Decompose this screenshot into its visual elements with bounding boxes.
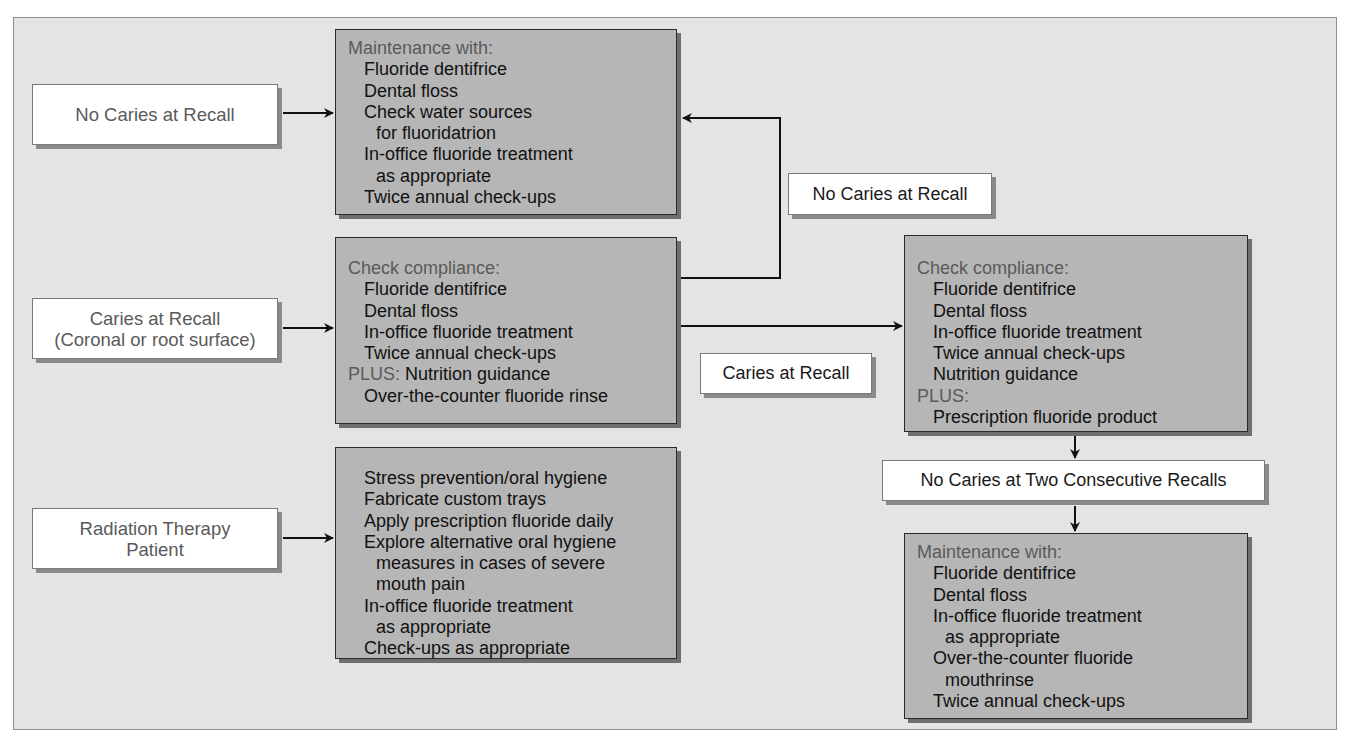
maintenance-item: for fluoridatrion: [348, 123, 666, 144]
radiation-item: as appropriate: [364, 617, 666, 638]
transition-two-consecutive: No Caries at Two Consecutive Recalls: [882, 460, 1265, 501]
compliance-plus-item: Over-the-counter fluoride rinse: [348, 386, 666, 407]
maintenance-item: Twice annual check-ups: [348, 187, 666, 208]
radiation-item: Apply prescription fluoride daily: [364, 511, 666, 532]
maintenance-item: Fluoride dentifrice: [348, 59, 666, 80]
compliance-plus-row: PLUS: Nutrition guidance: [348, 364, 666, 385]
compliance-item: In-office fluoride treatment: [348, 322, 666, 343]
radiation-item: measures in cases of severe: [364, 553, 666, 574]
final-maintenance-item: Over-the-counter fluoride: [917, 648, 1237, 669]
radiation-item: Check-ups as appropriate: [364, 638, 666, 659]
condition-no-caries-label: No Caries at Recall: [75, 104, 234, 125]
escalated-item: Fluoride dentifrice: [917, 279, 1237, 300]
maintenance-item: Dental floss: [348, 81, 666, 102]
maintenance-header: Maintenance with:: [348, 38, 666, 59]
transition-caries: Caries at Recall: [700, 353, 872, 394]
condition-radiation: Radiation Therapy Patient: [32, 508, 278, 569]
final-maintenance-item: Dental floss: [917, 585, 1237, 606]
escalated-item: Twice annual check-ups: [917, 343, 1237, 364]
maintenance-box: Maintenance with: Fluoride dentifrice De…: [335, 29, 677, 215]
compliance-plus-item: Nutrition guidance: [405, 364, 550, 384]
transition-no-caries: No Caries at Recall: [788, 173, 992, 215]
compliance-plus-label: PLUS:: [348, 364, 400, 384]
escalated-plus-label: PLUS:: [917, 386, 1237, 407]
escalated-item: Nutrition guidance: [917, 364, 1237, 385]
transition-two-consecutive-label: No Caries at Two Consecutive Recalls: [921, 470, 1227, 491]
final-maintenance-box: Maintenance with: Fluoride dentifrice De…: [904, 533, 1248, 719]
radiation-box: Stress prevention/oral hygiene Fabricate…: [335, 447, 677, 659]
condition-caries-line2: (Coronal or root surface): [54, 329, 256, 350]
maintenance-item: Check water sources: [348, 102, 666, 123]
escalated-plus-item: Prescription fluoride product: [917, 407, 1237, 428]
final-maintenance-item: as appropriate: [917, 627, 1237, 648]
compliance-box: Check compliance: Fluoride dentifrice De…: [335, 237, 677, 424]
final-maintenance-item: mouthrinse: [917, 670, 1237, 691]
condition-no-caries: No Caries at Recall: [32, 84, 278, 145]
condition-radiation-line2: Patient: [126, 539, 184, 560]
radiation-item: Fabricate custom trays: [364, 489, 666, 510]
compliance-item: Twice annual check-ups: [348, 343, 666, 364]
condition-caries-line1: Caries at Recall: [90, 308, 221, 329]
transition-caries-label: Caries at Recall: [722, 363, 849, 384]
final-maintenance-item: In-office fluoride treatment: [917, 606, 1237, 627]
escalated-item: Dental floss: [917, 301, 1237, 322]
escalated-item: In-office fluoride treatment: [917, 322, 1237, 343]
final-maintenance-header: Maintenance with:: [917, 542, 1237, 563]
compliance-header: Check compliance:: [348, 258, 666, 279]
maintenance-item: In-office fluoride treatment: [348, 144, 666, 165]
maintenance-item: as appropriate: [348, 166, 666, 187]
compliance-item: Fluoride dentifrice: [348, 279, 666, 300]
escalated-box: Check compliance: Fluoride dentifrice De…: [904, 235, 1248, 432]
radiation-item: Explore alternative oral hygiene: [364, 532, 666, 553]
radiation-item: Stress prevention/oral hygiene: [364, 468, 666, 489]
transition-no-caries-label: No Caries at Recall: [812, 184, 967, 205]
final-maintenance-item: Fluoride dentifrice: [917, 563, 1237, 584]
compliance-item: Dental floss: [348, 301, 666, 322]
condition-caries: Caries at Recall (Coronal or root surfac…: [32, 298, 278, 359]
condition-radiation-line1: Radiation Therapy: [80, 518, 231, 539]
radiation-item: In-office fluoride treatment: [364, 596, 666, 617]
escalated-header: Check compliance:: [917, 258, 1237, 279]
final-maintenance-item: Twice annual check-ups: [917, 691, 1237, 712]
radiation-item: mouth pain: [364, 574, 666, 595]
